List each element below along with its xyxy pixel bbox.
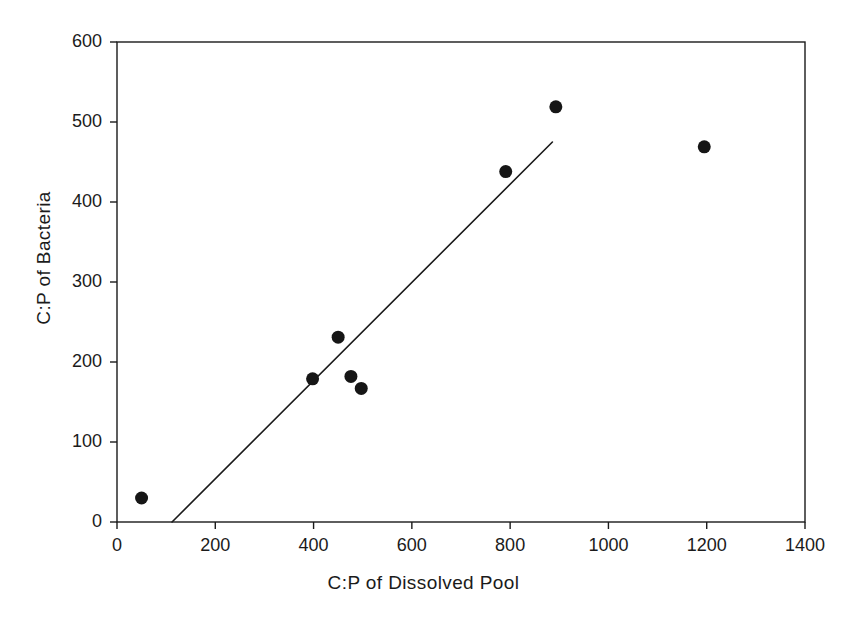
y-axis-tick-label: 400 <box>32 191 102 212</box>
y-axis-tick-label: 200 <box>32 351 102 372</box>
plot-frame <box>117 42 805 522</box>
scatter-plot-canvas <box>0 0 847 626</box>
chart-figure: C:P of Dissolved Pool C:P of Bacteria 01… <box>0 0 847 626</box>
x-axis-tick-label: 1400 <box>760 535 847 556</box>
y-axis-tick-label: 300 <box>32 271 102 292</box>
data-point-marker <box>355 382 368 395</box>
x-axis-tick-label: 1200 <box>662 535 752 556</box>
x-axis-tick-label: 600 <box>367 535 457 556</box>
x-axis-title: C:P of Dissolved Pool <box>0 572 847 594</box>
x-axis-tick-label: 400 <box>269 535 359 556</box>
data-point-marker <box>135 492 148 505</box>
y-axis-tick-label: 600 <box>32 31 102 52</box>
x-axis-tick-label: 800 <box>465 535 555 556</box>
data-point-marker <box>499 165 512 178</box>
x-axis-tick-label: 200 <box>170 535 260 556</box>
y-axis-tick-label: 100 <box>32 431 102 452</box>
data-point-marker <box>698 140 711 153</box>
y-axis-tick-label: 0 <box>32 511 102 532</box>
y-axis-tick-label: 500 <box>32 111 102 132</box>
data-point-marker <box>344 370 357 383</box>
data-point-marker <box>332 331 345 344</box>
data-point-marker <box>306 372 319 385</box>
x-axis-tick-label: 1000 <box>563 535 653 556</box>
data-point-marker <box>549 100 562 113</box>
x-axis-tick-label: 0 <box>72 535 162 556</box>
regression-trend-line <box>172 142 552 522</box>
